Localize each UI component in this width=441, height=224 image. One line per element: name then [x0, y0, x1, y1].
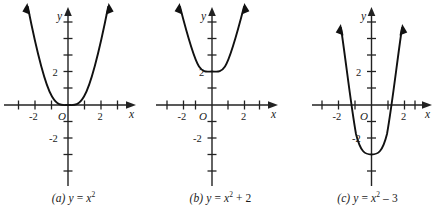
- plot-c: y x O -2 2 2 -2: [294, 0, 441, 192]
- caption-a-lhs: y: [68, 192, 73, 204]
- caption-b-tail: + 2: [236, 192, 251, 204]
- y-axis-label-a: y: [56, 10, 63, 23]
- panel-c: y x O -2 2 2 -2 (c) y = x2 – 3: [294, 0, 441, 224]
- caption-c: (c) y = x2 – 3: [294, 192, 441, 204]
- caption-c-tail: – 3: [383, 192, 398, 204]
- caption-a-letter: (a): [52, 192, 66, 204]
- caption-c-letter: (c): [337, 192, 350, 204]
- panel-a: y x O -2 2 2 -2 (a) y = x2: [0, 0, 147, 224]
- y-tick-label-neg2-b: -2: [193, 133, 202, 144]
- origin-label-b: O: [199, 110, 207, 122]
- x-axis-label-a: x: [128, 108, 135, 120]
- caption-a-eq: =: [77, 192, 84, 204]
- x-tick-label-neg2-b: -2: [178, 111, 187, 122]
- x-axis-b: [156, 101, 278, 110]
- x-tick-label-2-b: 2: [241, 111, 246, 122]
- y-axis-label-c: y: [360, 10, 367, 23]
- caption-b: (b) y = x2 + 2: [147, 192, 294, 204]
- x-tick-label-2-a: 2: [98, 111, 103, 122]
- caption-b-exp: 2: [229, 190, 233, 199]
- x-axis-label-b: x: [270, 108, 277, 120]
- caption-b-lhs: y: [206, 192, 211, 204]
- x-tick-label-neg2-c: -2: [333, 111, 342, 122]
- y-tick-label-2-b: 2: [199, 67, 204, 78]
- caption-b-eq: =: [214, 192, 221, 204]
- panel-b: y x O -2 2 2 -2 (b) y = x2 + 2: [147, 0, 294, 224]
- y-tick-label-neg2-a: -2: [49, 133, 58, 144]
- y-axis-c: [367, 7, 376, 186]
- y-axis-label-b: y: [200, 10, 207, 23]
- y-tick-label-2-a: 2: [53, 67, 58, 78]
- caption-a-exp: 2: [91, 190, 95, 199]
- caption-c-lhs: y: [353, 192, 358, 204]
- y-tick-label-2-c: 2: [356, 67, 361, 78]
- origin-label-c: O: [360, 110, 368, 122]
- y-tick-label-neg2-c: -2: [352, 133, 361, 144]
- plot-b: y x O -2 2 2 -2: [147, 0, 294, 192]
- caption-b-letter: (b): [190, 192, 204, 204]
- x-tick-label-neg2-a: -2: [29, 111, 38, 122]
- y-axis-b: [208, 7, 217, 186]
- parabola-figure: y x O -2 2 2 -2 (a) y = x2: [0, 0, 441, 224]
- caption-a: (a) y = x2: [0, 192, 147, 204]
- x-tick-label-2-c: 2: [401, 111, 406, 122]
- origin-label-a: O: [58, 110, 66, 122]
- caption-c-exp: 2: [376, 190, 380, 199]
- x-axis-label-c: x: [424, 108, 431, 120]
- y-axis-a: [64, 7, 73, 186]
- caption-c-eq: =: [361, 192, 368, 204]
- plot-a: y x O -2 2 2 -2: [0, 0, 147, 192]
